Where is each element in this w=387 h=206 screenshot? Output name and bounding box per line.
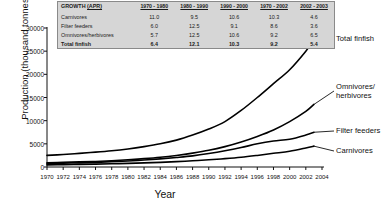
x-axis-tick-label: 2004 — [315, 174, 328, 180]
table-row: Total finfish 6.4 12.1 10.3 9.2 5.4 — [58, 40, 334, 49]
x-axis-tick-label: 1972 — [56, 174, 69, 180]
growth-col-header: 2002 - 2003 — [294, 2, 334, 13]
x-axis-tick-labels: 1970197219741976197819801982198419861988… — [0, 174, 387, 186]
growth-col-header: 1970 - 1980 — [134, 2, 174, 13]
growth-cell: 10.6 — [214, 31, 254, 40]
x-axis-tick-label: 1988 — [186, 174, 199, 180]
growth-cell: 5.4 — [294, 40, 334, 49]
series-line-filter-feeders — [47, 132, 314, 164]
chart-container: Production (thousand tonnes) 05000100001… — [0, 0, 387, 206]
leader-omnivores-herbivores — [314, 91, 334, 104]
leader-filter-feeders — [314, 131, 334, 132]
series-label-carnivores: Carnivores — [336, 147, 373, 156]
growth-col-header: 1980 - 1990 — [174, 2, 214, 13]
table-row: Omnivores/herbivores 5.7 12.5 10.6 9.2 6… — [58, 31, 334, 40]
growth-col-header: 1990 - 2000 — [214, 2, 254, 13]
growth-cell: 9.2 — [254, 31, 294, 40]
x-axis-tick-label: 1982 — [137, 174, 150, 180]
series-label-filter-feeders: Filter feeders — [336, 127, 380, 136]
x-axis-tick-label: 1990 — [202, 174, 215, 180]
growth-cell: 3.6 — [294, 22, 334, 31]
growth-col-header: 1970 - 2002 — [254, 2, 294, 13]
series-line-total-finfish — [47, 40, 314, 156]
growth-cell: 11.0 — [134, 13, 174, 22]
growth-cell: 9.1 — [214, 22, 254, 31]
growth-table-title-suffix: (APR) — [87, 3, 102, 9]
growth-cell: 4.6 — [294, 13, 334, 22]
growth-table-title: GROWTH (APR) — [58, 2, 134, 13]
growth-cell: 9.2 — [254, 40, 294, 49]
growth-table-title-text: GROWTH — [61, 3, 86, 9]
series-label-omnivores-herbivores: Omnivores/ herbivores — [336, 83, 375, 100]
x-axis-tick-label: 1994 — [234, 174, 247, 180]
x-axis-tick-label: 1998 — [267, 174, 280, 180]
growth-table: GROWTH (APR) 1970 - 1980 1980 - 1990 199… — [57, 1, 335, 49]
x-axis-tick-label: 1980 — [121, 174, 134, 180]
x-axis-tick-label: 2000 — [283, 174, 296, 180]
growth-cell: 9.5 — [174, 13, 214, 22]
x-axis-tick-label: 1976 — [89, 174, 102, 180]
growth-cell: 10.6 — [214, 13, 254, 22]
growth-row-label: Filter feeders — [58, 22, 134, 31]
growth-row-label: Total finfish — [58, 40, 134, 49]
x-axis-tick-label: 1978 — [105, 174, 118, 180]
x-axis-tick-label: 1996 — [251, 174, 264, 180]
x-axis-tick-label: 1986 — [170, 174, 183, 180]
table-row: Filter feeders 6.0 12.5 9.1 8.6 3.6 — [58, 22, 334, 31]
growth-cell: 6.5 — [294, 31, 334, 40]
x-axis-title: Year — [0, 188, 330, 200]
x-axis-tick-label: 1970 — [40, 174, 53, 180]
x-axis-tick-label: 1974 — [73, 174, 86, 180]
series-label-omnivores-line2: herbivores — [336, 92, 375, 101]
x-axis-tick-label: 2002 — [299, 174, 312, 180]
growth-row-label: Omnivores/herbivores — [58, 31, 134, 40]
growth-cell: 6.0 — [134, 22, 174, 31]
growth-cell: 5.7 — [134, 31, 174, 40]
growth-cell: 8.6 — [254, 22, 294, 31]
growth-cell: 10.3 — [214, 40, 254, 49]
leader-carnivores — [314, 146, 334, 151]
growth-cell: 12.5 — [174, 22, 214, 31]
x-axis-tick-label: 1992 — [218, 174, 231, 180]
growth-row-label: Carnivores — [58, 13, 134, 22]
growth-cell: 6.4 — [134, 40, 174, 49]
growth-cell: 12.5 — [174, 31, 214, 40]
x-axis-tick-label: 1984 — [154, 174, 167, 180]
growth-cell: 12.1 — [174, 40, 214, 49]
table-row: Carnivores 11.0 9.5 10.6 10.3 4.6 — [58, 13, 334, 22]
series-label-total-finfish: Total finfish — [336, 35, 374, 44]
growth-cell: 10.3 — [254, 13, 294, 22]
